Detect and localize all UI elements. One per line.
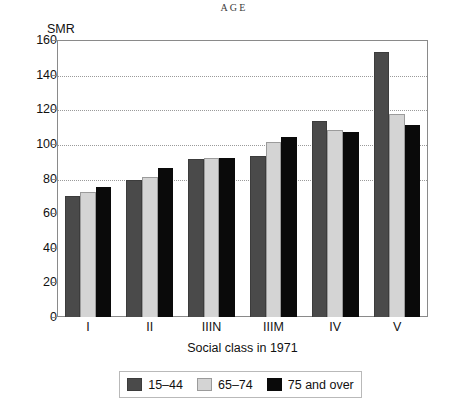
y-axis-tick-label: 80: [5, 172, 57, 186]
y-axis-tick-mark: [52, 317, 57, 318]
legend-swatch: [127, 378, 142, 391]
bar[interactable]: [204, 158, 220, 317]
y-axis-tick-label: 60: [5, 206, 57, 220]
bar[interactable]: [250, 156, 266, 317]
legend-label: 15–44: [148, 378, 183, 392]
y-axis-tick-label: 0: [5, 310, 57, 324]
legend-label: 75 and over: [288, 378, 354, 392]
x-axis-title: Social class in 1971: [57, 341, 428, 355]
x-axis-tick-label: IIIN: [202, 320, 221, 334]
y-axis-tick-label: 100: [5, 137, 57, 151]
bar[interactable]: [266, 142, 282, 317]
bar[interactable]: [389, 114, 405, 317]
x-axis-tick-label: IIIM: [263, 320, 284, 334]
bar[interactable]: [126, 180, 142, 317]
bar-group: [65, 40, 112, 317]
y-axis-tick-label: 160: [5, 33, 57, 47]
x-axis-tick-label: II: [146, 320, 153, 334]
y-axis-ticks: 020406080100120140160: [0, 40, 57, 317]
y-axis-tick-label: 120: [5, 102, 57, 116]
bar[interactable]: [219, 158, 235, 317]
x-axis-ticks: IIIIIINIIIMIVV: [57, 320, 428, 338]
x-axis-tick-label: V: [393, 320, 401, 334]
bars-layer: [57, 40, 428, 317]
bar[interactable]: [142, 177, 158, 317]
bar[interactable]: [374, 52, 390, 317]
legend-item[interactable]: 15–44: [127, 378, 183, 392]
x-axis-tick-label: IV: [329, 320, 341, 334]
bar-group: [250, 40, 297, 317]
bar[interactable]: [188, 159, 204, 317]
bar[interactable]: [312, 121, 328, 317]
y-axis-tick-label: 20: [5, 275, 57, 289]
bar-group: [312, 40, 359, 317]
legend-item[interactable]: 65–74: [197, 378, 253, 392]
chart-legend: 15–4465–7475 and over: [119, 371, 362, 398]
bar[interactable]: [65, 196, 81, 317]
x-axis-tick-label: I: [86, 320, 89, 334]
bar[interactable]: [96, 187, 112, 317]
chart-title: AGE: [0, 2, 468, 13]
bar[interactable]: [158, 168, 174, 317]
y-axis-tick-label: 40: [5, 241, 57, 255]
bar-group: [188, 40, 235, 317]
y-axis-tick-label: 140: [5, 68, 57, 82]
legend-swatch: [267, 378, 282, 391]
bar[interactable]: [343, 132, 359, 317]
legend-label: 65–74: [218, 378, 253, 392]
bar[interactable]: [405, 125, 421, 317]
bar[interactable]: [327, 130, 343, 317]
bar-group: [374, 40, 421, 317]
bar[interactable]: [80, 192, 96, 317]
legend-item[interactable]: 75 and over: [267, 378, 354, 392]
legend-swatch: [197, 378, 212, 391]
bar-group: [126, 40, 173, 317]
bar[interactable]: [281, 137, 297, 317]
